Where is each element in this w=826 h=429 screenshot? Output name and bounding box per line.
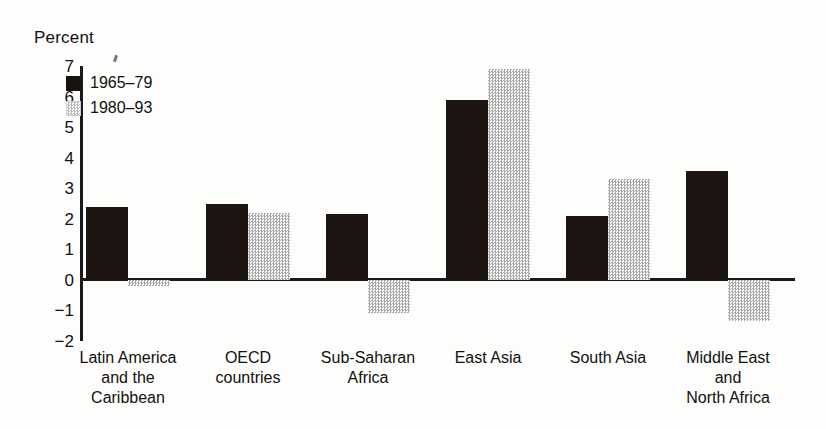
- x-category-label: Middle East and North Africa: [653, 348, 803, 408]
- y-tick-label: 2: [32, 211, 74, 228]
- bar-3-series-0: [446, 100, 488, 280]
- y-tick-label: −1: [32, 302, 74, 319]
- page-title: Percent: [34, 28, 94, 48]
- bar-chart-figure: Percent 76543210−1−2 1965–791980–93 Lati…: [0, 0, 826, 429]
- legend-item: 1965–79: [66, 72, 256, 94]
- bar-2-series-0: [326, 214, 368, 280]
- y-tick-label: 0: [32, 272, 74, 289]
- legend-label: 1980–93: [90, 99, 152, 117]
- legend-swatch-dark: [66, 76, 81, 91]
- bar-4-series-0: [566, 216, 608, 280]
- bar-3-series-1: [488, 69, 530, 280]
- scan-artifact-speck: [113, 55, 118, 63]
- x-axis-category-labels: Latin America and the CaribbeanOECD coun…: [80, 348, 795, 426]
- bar-0-series-1: [128, 280, 170, 286]
- chart-legend: 1965–791980–93: [66, 72, 256, 122]
- bar-5-series-0: [686, 171, 728, 279]
- y-tick-label: 4: [32, 150, 74, 167]
- bar-2-series-1: [368, 280, 410, 314]
- bar-5-series-1: [728, 280, 770, 321]
- legend-item: 1980–93: [66, 97, 256, 119]
- y-tick-label: 1: [32, 241, 74, 258]
- bar-1-series-1: [248, 213, 290, 280]
- legend-label: 1965–79: [90, 74, 152, 92]
- bar-0-series-0: [86, 207, 128, 280]
- bar-1-series-0: [206, 204, 248, 280]
- bar-4-series-1: [608, 179, 650, 280]
- legend-swatch-light: [66, 101, 81, 116]
- y-tick-label: 3: [32, 180, 74, 197]
